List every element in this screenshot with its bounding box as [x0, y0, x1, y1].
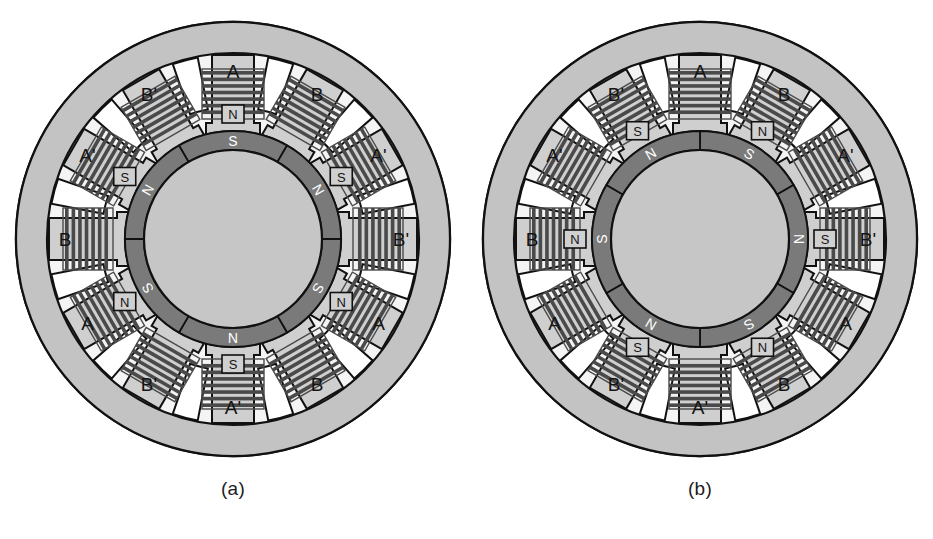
coil-winding [545, 208, 549, 270]
coil-winding [552, 208, 556, 270]
phase-label: B [778, 84, 791, 105]
coil-winding [202, 384, 264, 388]
coil-winding [669, 97, 731, 101]
stator-pole-tip-label: S [633, 340, 642, 355]
coil-winding [358, 208, 362, 270]
phase-label: B' [141, 84, 157, 105]
stator-pole-tip-label: N [228, 107, 237, 122]
phase-label: A [839, 313, 852, 334]
phase-label: B' [860, 229, 876, 250]
coil-winding [669, 364, 731, 368]
stator-pole-tip-label: N [120, 295, 129, 310]
stator-pole-tip: N [752, 338, 774, 356]
coil-winding [202, 91, 264, 95]
coil-winding [78, 208, 82, 270]
phase-label: B [311, 374, 324, 395]
coil-winding [838, 208, 842, 270]
coil-winding [371, 208, 375, 270]
coil-winding [669, 104, 731, 108]
phase-label: A' [546, 145, 562, 166]
coil-winding [98, 208, 102, 270]
stator-pole-tip-label: N [570, 232, 579, 247]
figure-canvas: NABSA'B'NABSA'B'NABSA'B'SNSNSN (a) ANBA'… [0, 0, 933, 539]
rotor-pole-label: S [228, 133, 237, 149]
phase-label: A' [79, 145, 95, 166]
phase-label: B [778, 374, 791, 395]
stator-pole-tip-label: S [821, 232, 830, 247]
coil-winding [851, 208, 855, 270]
coil-winding [669, 91, 731, 95]
phase-label: A [548, 313, 561, 334]
coil-winding [85, 208, 89, 270]
phase-label: A' [837, 145, 853, 166]
panel-caption-b: (b) [467, 478, 933, 500]
phase-label: A [372, 313, 385, 334]
coil-winding [202, 97, 264, 101]
motor-diagram-a: NABSA'B'NABSA'B'NABSA'B'SNSNSN (a) [0, 0, 466, 539]
coil-winding [669, 84, 731, 88]
coil-winding [202, 377, 264, 381]
stator-pole-tip-label: S [120, 170, 129, 185]
stator-pole-tip: N [564, 230, 586, 248]
coil-winding [558, 208, 562, 270]
stator-pole-tip: N [330, 293, 352, 311]
stator-pole-tip: N [752, 122, 774, 140]
stator-pole-tip-label: S [633, 124, 642, 139]
phase-label: B' [141, 374, 157, 395]
stator-pole-tip-label: N [337, 295, 346, 310]
rotor: SNSNSN [592, 131, 808, 347]
phase-label: A [227, 61, 240, 82]
stator-pole-tip: S [627, 338, 649, 356]
motor-cross-section-a: NABSA'B'NABSA'B'NABSA'B'SNSNSN [0, 0, 466, 478]
coil-winding [384, 208, 388, 270]
rotor-pole-label: S [594, 234, 610, 243]
stator-pole-tip-label: N [758, 124, 767, 139]
coil-winding [91, 208, 95, 270]
stator-pole-tip: S [222, 355, 244, 373]
phase-label: A' [370, 145, 386, 166]
phase-label: B [526, 229, 539, 250]
stator-pole-tip: N [114, 293, 136, 311]
rotor: SNSNSN [125, 131, 341, 347]
rotor-pole-label: N [228, 330, 238, 346]
stator-pole-tip-label: S [229, 357, 238, 372]
stator-pole-tip-label: N [758, 340, 767, 355]
coil-winding [669, 371, 731, 375]
phase-label: A' [692, 397, 708, 418]
phase-label: A' [225, 397, 241, 418]
phase-label: B' [393, 229, 409, 250]
motor-diagram-b: ANBA'SB'ANBA'SB'ANBA'SB'SNSNSN (b) [467, 0, 933, 539]
coil-winding [669, 377, 731, 381]
coil-winding [669, 390, 731, 394]
phase-label: A [694, 61, 707, 82]
rotor-hub [144, 150, 322, 328]
phase-label: A [81, 313, 94, 334]
stator-pole-tip: S [627, 122, 649, 140]
phase-label: B [311, 84, 324, 105]
coil-winding [202, 390, 264, 394]
coil-winding [539, 208, 543, 270]
phase-label: B' [608, 374, 624, 395]
coil-winding [202, 84, 264, 88]
coil-winding [669, 110, 731, 114]
stator-pole-tip: N [222, 105, 244, 123]
coil-winding [845, 208, 849, 270]
stator-pole-tip: S [114, 168, 136, 186]
coil-winding [365, 208, 369, 270]
stator-pole-tip-label: S [337, 170, 346, 185]
coil-winding [104, 208, 108, 270]
rotor-hub [611, 150, 789, 328]
stator-pole-tip: S [330, 168, 352, 186]
rotor-pole-label: N [791, 234, 807, 244]
coil-winding [72, 208, 76, 270]
phase-label: B' [608, 84, 624, 105]
coil-winding [669, 384, 731, 388]
panel-caption-a: (a) [0, 478, 466, 500]
stator-pole-tip: S [814, 230, 836, 248]
phase-label: B [59, 229, 72, 250]
motor-cross-section-b: ANBA'SB'ANBA'SB'ANBA'SB'SNSNSN [467, 0, 933, 478]
coil-winding [378, 208, 382, 270]
